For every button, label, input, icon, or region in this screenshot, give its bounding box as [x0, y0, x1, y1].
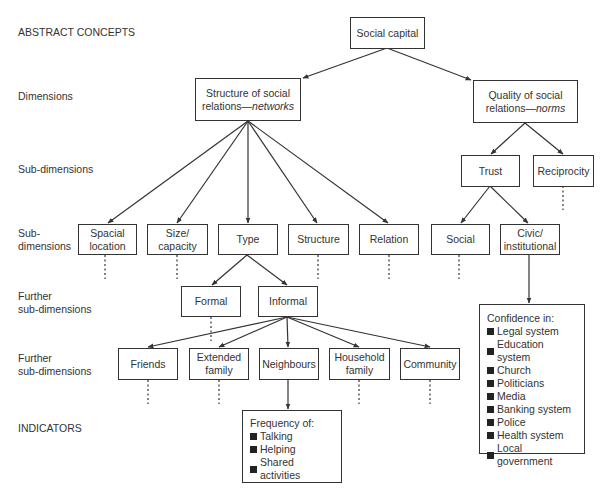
row-label-line: dimensions [18, 240, 71, 253]
node-formal: Formal [181, 286, 241, 317]
indicator-list: Talking Helping Shared activities [250, 430, 334, 482]
bullet-square-icon [250, 433, 257, 440]
node-label: relations— [202, 100, 252, 112]
bullet-square-icon [250, 466, 257, 473]
row-label-further-sub-dimensions: Further sub-dimensions [18, 290, 92, 316]
indicator-item: Media [487, 390, 577, 403]
node-label: Social capital [357, 27, 419, 40]
node-label: Structure [297, 233, 340, 246]
node-quality-norms: Quality of socialrelations—norms [473, 80, 578, 123]
node-community: Community [400, 348, 460, 380]
indicator-item: Politicians [487, 377, 577, 390]
indicator-text: Helping [260, 443, 296, 456]
indicator-title: Frequency of: [250, 417, 334, 430]
node-structure-networks: Structure of socialrelations—networks [195, 78, 301, 121]
node-civic-institutional: Civic/institutional [500, 224, 560, 255]
indicator-text: Police [497, 416, 526, 429]
indicator-text: Education system [497, 338, 577, 364]
node-label: Formal [195, 295, 228, 308]
row-label-line: Sub- [18, 227, 71, 240]
node-neighbours: Neighbours [259, 348, 319, 380]
node-label: Civic/ [504, 227, 557, 240]
node-reciprocity: Reciprocity [533, 155, 594, 187]
indicator-text: Legal system [497, 325, 559, 338]
bullet-square-icon [487, 432, 494, 439]
bullet-square-icon [487, 380, 494, 387]
node-social: Social [431, 224, 490, 255]
node-label-italic: norms [536, 102, 565, 114]
node-label: Informal [269, 295, 307, 308]
indicator-frequency-box: Frequency of: Talking Helping Shared act… [242, 410, 342, 483]
indicator-text: Talking [260, 430, 293, 443]
node-label-italic: networks [252, 100, 294, 112]
indicator-item: Shared activities [250, 456, 334, 482]
row-label-line: Further [18, 352, 92, 365]
node-spacial-location: Spaciallocation [78, 224, 137, 255]
indicator-item: Legal system [487, 325, 577, 338]
node-label: Friends [130, 358, 165, 371]
node-label: relations— [486, 102, 536, 114]
row-label-dimensions: Dimensions [18, 90, 73, 103]
indicator-item: Health system [487, 429, 577, 442]
indicator-text: Shared activities [260, 456, 334, 482]
row-label-indicators: INDICATORS [18, 422, 82, 435]
node-label: Structure of social [202, 87, 294, 100]
node-structure: Structure [288, 224, 349, 255]
node-label: Size/ [158, 227, 197, 240]
node-label: family [197, 364, 241, 377]
node-label: Type [237, 233, 260, 246]
node-household-family: Householdfamily [329, 348, 390, 380]
node-type: Type [218, 224, 278, 255]
indicator-item: Talking [250, 430, 334, 443]
indicator-item: Helping [250, 443, 334, 456]
indicator-confidence-box: Confidence in: Legal system Education sy… [479, 304, 585, 454]
bullet-square-icon [487, 367, 494, 374]
node-label: Reciprocity [538, 165, 590, 178]
indicator-text: Politicians [497, 377, 544, 390]
bullet-square-icon [487, 328, 494, 335]
indicator-item: Local government [487, 442, 577, 468]
bullet-square-icon [487, 406, 494, 413]
row-label-line: sub-dimensions [18, 303, 92, 316]
indicator-title: Confidence in: [487, 312, 577, 325]
row-label-further-sub-dimensions-2: Further sub-dimensions [18, 352, 92, 378]
indicator-text: Banking system [497, 403, 571, 416]
node-friends: Friends [118, 348, 178, 380]
bullet-square-icon [487, 393, 494, 400]
indicator-item: Police [487, 416, 577, 429]
node-informal: Informal [258, 286, 318, 317]
bullet-square-icon [487, 348, 494, 355]
node-size-capacity: Size/capacity [147, 224, 208, 255]
node-label: Social [446, 233, 475, 246]
indicator-text: Local government [497, 442, 577, 468]
node-trust: Trust [461, 155, 520, 187]
node-label: Neighbours [262, 358, 316, 371]
node-label: capacity [158, 240, 197, 253]
bullet-square-icon [487, 452, 494, 459]
row-label-sub-dimensions: Sub-dimensions [18, 163, 93, 176]
indicator-item: Education system [487, 338, 577, 364]
indicator-item: Banking system [487, 403, 577, 416]
node-relation: Relation [359, 224, 419, 255]
node-label: Quality of social [486, 89, 565, 102]
row-label-line: sub-dimensions [18, 365, 92, 378]
node-label: Relation [370, 233, 409, 246]
node-label: institutional [504, 240, 557, 253]
row-label-sub-dimensions-2: Sub- dimensions [18, 227, 71, 253]
node-social-capital: Social capital [350, 17, 425, 49]
row-label-abstract-concepts: ABSTRACT CONCEPTS [18, 26, 135, 39]
indicator-text: Church [497, 364, 531, 377]
bullet-square-icon [487, 419, 494, 426]
indicator-item: Church [487, 364, 577, 377]
node-label: Extended [197, 351, 241, 364]
node-label: Household [334, 351, 384, 364]
indicator-text: Health system [497, 429, 564, 442]
indicator-text: Media [497, 390, 526, 403]
row-label-line: Further [18, 290, 92, 303]
indicator-list: Legal system Education system Church Pol… [487, 325, 577, 468]
node-label: Trust [479, 165, 503, 178]
node-label: family [334, 364, 384, 377]
bullet-square-icon [250, 446, 257, 453]
node-label: location [89, 240, 125, 253]
node-label: Community [403, 358, 456, 371]
